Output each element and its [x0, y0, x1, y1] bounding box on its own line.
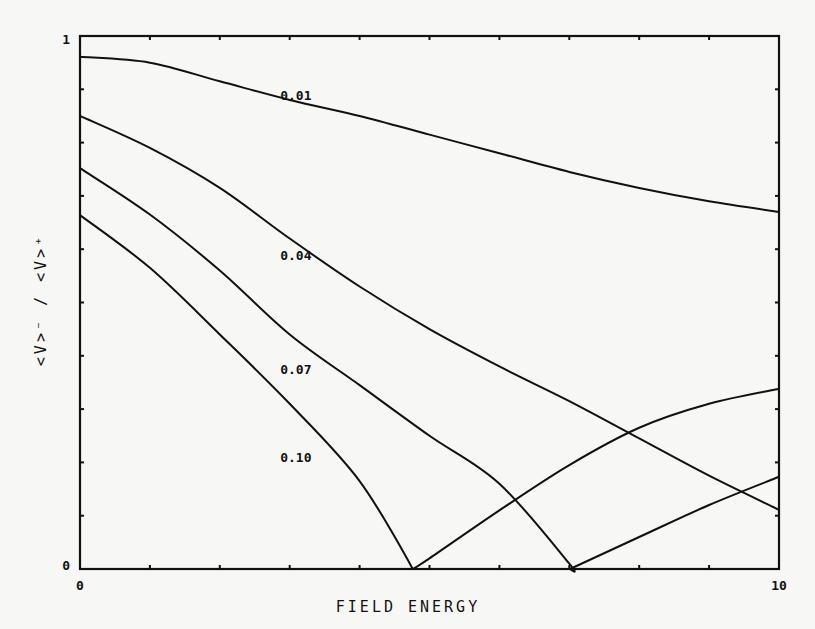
y-tick-label-min: 0: [62, 558, 70, 573]
curve-0.07: [80, 168, 779, 572]
curve-label-0.10: 0.10: [280, 450, 311, 465]
x-tick-label-max: 10: [771, 578, 787, 593]
x-axis-title: FIELD ENERGY: [336, 598, 480, 616]
y-axis-title: <V>⁻ / <V>⁺: [32, 234, 50, 366]
x-tick-label-min: 0: [76, 578, 84, 593]
curve-label-0.04: 0.04: [280, 248, 311, 263]
curve-label-0.07: 0.07: [280, 362, 311, 377]
y-tick-label-max: 1: [62, 32, 70, 47]
chart: 0.010.040.070.10 0 10 0 1 FIELD ENERGY <…: [0, 0, 815, 629]
curve-0.10: [80, 215, 779, 569]
plot-border: [80, 36, 779, 569]
curve-0.01: [80, 57, 779, 212]
plot-frame: [80, 36, 779, 569]
curve-label-0.01: 0.01: [280, 88, 311, 103]
axis-ticks: [80, 36, 779, 569]
curve-0.04: [80, 116, 779, 510]
curves: [80, 57, 779, 572]
curve-labels: 0.010.040.070.10: [280, 88, 311, 465]
